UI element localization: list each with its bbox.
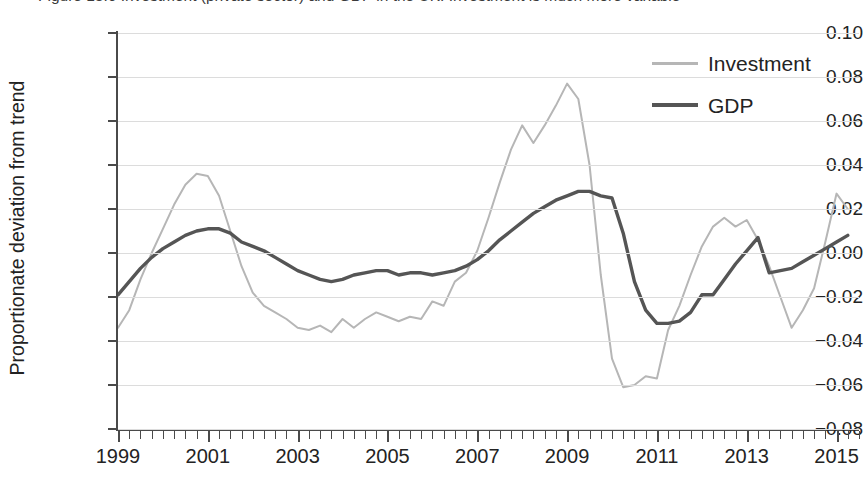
x-axis-tick	[242, 431, 243, 439]
x-axis-tick	[174, 431, 175, 439]
x-axis-tick-label: 1999	[78, 444, 158, 468]
x-axis-tick	[197, 431, 198, 439]
x-axis-tick	[533, 431, 534, 439]
x-axis-tick-label: 2011	[617, 444, 697, 468]
x-axis-tick	[421, 431, 422, 439]
x-axis-tick	[758, 431, 759, 439]
gridline	[118, 341, 859, 342]
x-axis-tick	[668, 431, 669, 439]
x-axis-tick	[331, 431, 332, 439]
x-axis-tick-label: 2001	[168, 444, 248, 468]
x-axis-tick	[769, 431, 770, 439]
x-axis-tick	[432, 431, 433, 439]
x-axis-tick	[848, 431, 849, 439]
gridline	[118, 209, 859, 210]
y-axis-tick	[108, 208, 117, 210]
x-axis-tick-label: 2009	[527, 444, 607, 468]
x-axis-tick	[500, 431, 501, 439]
y-axis-tick	[108, 428, 117, 430]
x-axis-tick	[286, 431, 287, 439]
x-axis-tick	[343, 431, 344, 439]
x-axis-tick	[522, 431, 523, 439]
x-axis-tick	[275, 431, 276, 439]
figure-caption-strip: Figure 13.6 Investment (private sector) …	[0, 0, 863, 14]
x-axis-tick	[814, 431, 815, 439]
x-axis-tick	[365, 431, 366, 439]
x-axis-tick-label: 2003	[258, 444, 338, 468]
x-axis-tick	[803, 431, 804, 439]
x-axis-tick	[601, 431, 602, 439]
x-axis-tick	[679, 431, 680, 439]
x-axis-tick	[578, 431, 579, 439]
y-axis-tick	[108, 384, 117, 386]
x-axis-tick	[253, 431, 254, 439]
x-axis-tick-label: 2013	[707, 444, 787, 468]
x-axis-tick-label: 2015	[797, 444, 868, 468]
line-gdp	[118, 191, 848, 323]
x-axis-tick	[713, 431, 714, 439]
figure-caption: Figure 13.6 Investment (private sector) …	[38, 0, 863, 4]
x-axis-tick	[129, 431, 130, 439]
x-axis-tick	[309, 431, 310, 439]
x-axis-tick	[702, 431, 703, 439]
x-axis-tick	[590, 431, 591, 439]
x-axis-tick	[691, 431, 692, 439]
x-axis-tick	[724, 431, 725, 439]
y-axis-tick	[108, 32, 117, 34]
x-axis-tick	[410, 431, 411, 439]
x-axis-tick	[163, 431, 164, 439]
gridline	[118, 429, 859, 430]
x-axis-tick	[208, 431, 210, 442]
x-axis-tick	[545, 431, 546, 439]
x-axis-tick	[612, 431, 613, 439]
x-axis-tick-label: 2007	[437, 444, 517, 468]
x-axis-tick	[556, 431, 557, 439]
x-axis-tick	[825, 431, 826, 439]
x-axis-tick	[376, 431, 377, 439]
x-axis-tick	[477, 431, 479, 442]
y-axis-title: Proportionate deviation from trend	[2, 8, 32, 448]
x-axis-tick	[489, 431, 490, 439]
y-axis-tick	[108, 120, 117, 122]
x-axis-tick	[399, 431, 400, 439]
gridline	[118, 297, 859, 298]
x-axis-tick	[118, 431, 120, 442]
x-axis-tick	[792, 431, 793, 439]
y-axis-tick	[108, 164, 117, 166]
x-axis-tick	[219, 431, 220, 439]
x-axis-tick	[387, 431, 389, 442]
x-axis-tick	[780, 431, 781, 439]
y-axis-tick	[108, 76, 117, 78]
x-axis-tick	[455, 431, 456, 439]
x-axis-tick	[736, 431, 737, 439]
x-axis-tick	[634, 431, 635, 439]
chart-legend: Investment GDP	[652, 42, 852, 126]
legend-label-investment: Investment	[708, 53, 811, 74]
x-axis-tick	[444, 431, 445, 439]
x-axis-tick	[230, 431, 231, 439]
x-axis-tick	[264, 431, 265, 439]
legend-swatch-investment-icon	[652, 62, 698, 65]
x-axis-tick	[511, 431, 512, 439]
x-axis-tick	[657, 431, 659, 442]
x-axis-tick-label: 2005	[347, 444, 427, 468]
x-axis-tick	[320, 431, 321, 439]
x-axis-tick	[837, 431, 839, 442]
x-axis-tick	[567, 431, 569, 442]
x-axis-tick	[354, 431, 355, 439]
x-axis-tick	[298, 431, 300, 442]
x-axis-tick	[623, 431, 624, 439]
x-axis-tick	[859, 431, 860, 439]
gridline	[118, 33, 859, 34]
x-axis-tick	[466, 431, 467, 439]
gridline	[118, 385, 859, 386]
legend-item-gdp: GDP	[652, 84, 852, 126]
y-axis-tick	[108, 340, 117, 342]
gridline	[118, 253, 859, 254]
legend-swatch-gdp-icon	[652, 103, 698, 107]
legend-label-gdp: GDP	[708, 95, 754, 116]
x-axis-tick	[747, 431, 749, 442]
x-axis-tick	[185, 431, 186, 439]
x-axis-tick	[140, 431, 141, 439]
